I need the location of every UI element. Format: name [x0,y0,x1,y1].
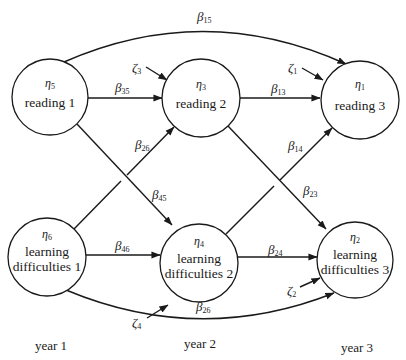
coef-label-beta26-upper: β26 [134,137,149,153]
node-eta4: η4 learning difficulties 2 [160,224,238,302]
node-label: reading 2 [176,96,227,111]
time-label-year-2: year 2 [184,336,216,351]
coef-label-beta13: β13 [270,81,285,97]
node-eta5: η5 reading 1 [12,59,88,135]
coef-label-beta23: β23 [302,183,317,199]
node-label-line1: learning [177,251,221,266]
node-label: reading 1 [25,95,76,110]
disturbance-label-zeta4: ζ4 [132,315,141,331]
disturbance-label-zeta1: ζ1 [288,60,297,76]
coef-label-beta45: β45 [151,187,166,203]
path-eta3-eta2 [228,126,326,229]
path-diagram: η5 reading 1 η3 reading 2 η1 reading 3 η… [0,0,406,360]
node-label-line2: difficulties 2 [165,266,233,281]
node-label-line2: difficulties 3 [321,262,390,277]
coef-label-beta15: β15 [196,9,211,25]
node-label: reading 3 [335,98,386,113]
coef-label-beta14: β14 [287,138,302,154]
time-label-year-1: year 1 [35,338,67,353]
path-eta5-eta4 [77,124,172,225]
node-label-line1: learning [333,247,377,262]
node-eta1: η1 reading 3 [321,61,399,139]
disturbance-label-zeta2: ζ2 [287,283,296,299]
coef-label-beta46: β46 [114,238,129,254]
path-eta4-eta1-a [226,186,274,234]
path-eta4-eta1-b [280,128,332,180]
coef-label-beta24: β24 [267,242,282,258]
disturbance-arrow-zeta3 [146,67,167,80]
node-eta6: η6 learning difficulties 1 [8,218,86,296]
disturbance-arrow-zeta1 [302,68,323,80]
disturbance-label-zeta3: ζ3 [132,60,141,76]
path-eta6-eta3-a [74,181,121,229]
node-eta2: η2 learning difficulties 3 [317,222,393,298]
time-label-year-3: year 3 [341,340,373,355]
node-label-line1: learning [25,244,69,259]
node-label-line2: difficulties 1 [13,259,81,274]
coef-label-beta35: β35 [114,80,129,96]
disturbance-arrow-zeta2 [300,278,320,287]
node-eta3: η3 reading 2 [162,59,240,137]
